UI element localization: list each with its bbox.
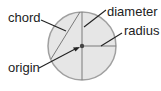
diameter-label: diameter [107,4,158,19]
origin-label: origin [8,60,40,75]
chord-label: chord [8,10,41,25]
radius-label: radius [124,23,160,38]
origin-point [80,44,84,48]
circle-diagram: chord diameter radius origin [0,0,161,91]
